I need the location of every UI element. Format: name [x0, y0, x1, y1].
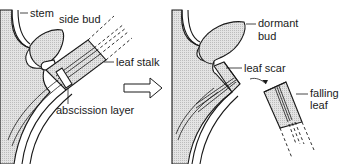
after-panel: dormant bud leaf scar falling leaf	[172, 10, 339, 164]
stem-tissue	[0, 10, 50, 164]
hollow-right-arrow-icon	[124, 78, 162, 98]
leaf-abscission-diagram: stem side bud leaf stalk abscission laye…	[0, 0, 344, 164]
label-leaf-scar: leaf scar	[244, 62, 286, 74]
label-leaf-stalk: leaf stalk	[116, 56, 160, 68]
dormant-bud	[199, 22, 245, 64]
label-stem: stem	[30, 7, 54, 19]
label-dormant-bud-line1: dormant	[258, 17, 298, 29]
label-side-bud: side bud	[59, 13, 101, 25]
label-falling-leaf-line1: falling	[310, 87, 339, 99]
label-abscission-layer: abscission layer	[56, 104, 135, 116]
label-dormant-bud-line2: bud	[258, 30, 276, 42]
label-falling-leaf-line2: leaf	[310, 99, 329, 111]
